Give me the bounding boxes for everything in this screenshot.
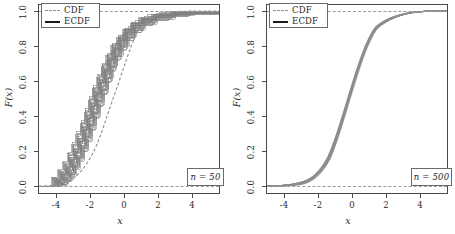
sample-size-label-left: n = 50 — [190, 172, 220, 182]
legend-dashed-line-icon-right — [273, 7, 288, 15]
x-tick-label-right-3: 0 — [340, 200, 364, 210]
x-tick-mark-right-2 — [318, 194, 319, 198]
x-tick-label-right-1: -4 — [272, 200, 296, 210]
x-tick-label-left-5: 4 — [180, 200, 204, 210]
y-tick-label-left-4: 0.4 — [18, 106, 28, 128]
y-tick-label-right-4: 0.4 — [246, 106, 256, 128]
y-tick-label-right-6: 0.0 — [246, 176, 256, 198]
sample-size-label-right: n = 500 — [414, 172, 450, 182]
sample-size-badge-left: n = 50 — [187, 168, 224, 186]
legend-label-cdf-right: CDF — [292, 5, 312, 16]
x-tick-label-right-5: 4 — [408, 200, 432, 210]
sample-size-badge-right: n = 500 — [411, 168, 452, 186]
panel-n500: F(x) 1.0 0.8 0.6 0.4 0.2 0.0 — [228, 0, 455, 234]
x-tick-mark-right-3 — [352, 194, 353, 198]
legend-entry-ecdf-left[interactable]: ECDF — [45, 16, 96, 27]
x-axis-title-left: x — [108, 215, 132, 226]
x-tick-label-left-4: 2 — [146, 200, 170, 210]
x-tick-mark-left-3 — [124, 194, 125, 198]
ecdf-curves-left — [39, 5, 219, 193]
x-tick-mark-left-4 — [158, 194, 159, 198]
y-tick-label-right-1: 1.0 — [246, 1, 256, 23]
y-tick-label-left-2: 0.8 — [18, 36, 28, 58]
y-tick-label-left-3: 0.6 — [18, 71, 28, 93]
reference-line-lower-right — [267, 186, 447, 187]
x-tick-label-right-2: -2 — [306, 200, 330, 210]
legend-left[interactable]: CDF ECDF — [41, 3, 100, 28]
legend-entry-cdf-left[interactable]: CDF — [45, 5, 96, 16]
x-tick-mark-right-4 — [386, 194, 387, 198]
x-tick-mark-left-2 — [90, 194, 91, 198]
x-tick-label-left-1: -4 — [44, 200, 68, 210]
x-tick-mark-left-5 — [192, 194, 193, 198]
x-tick-mark-left-1 — [56, 194, 57, 198]
legend-label-ecdf-left: ECDF — [64, 16, 90, 27]
plot-area-right — [267, 5, 447, 193]
reference-line-lower-left — [39, 186, 219, 187]
x-tick-mark-right-1 — [284, 194, 285, 198]
y-tick-label-left-5: 0.2 — [18, 141, 28, 163]
x-tick-label-left-3: 0 — [112, 200, 136, 210]
plot-area-left — [39, 5, 219, 193]
legend-label-cdf-left: CDF — [64, 5, 84, 16]
y-tick-label-right-3: 0.6 — [246, 71, 256, 93]
y-axis-title-left: F(x) — [3, 78, 14, 118]
x-tick-label-left-2: -2 — [78, 200, 102, 210]
legend-entry-cdf-right[interactable]: CDF — [273, 5, 324, 16]
legend-entry-ecdf-right[interactable]: ECDF — [273, 16, 324, 27]
panel-n50: F(x) 1.0 0.8 0.6 0.4 0.2 0.0 — [0, 0, 227, 234]
legend-dashed-line-icon-left — [45, 7, 60, 15]
x-axis-title-right: x — [336, 215, 360, 226]
legend-right[interactable]: CDF ECDF — [269, 3, 328, 28]
y-tick-label-right-5: 0.2 — [246, 141, 256, 163]
legend-label-ecdf-right: ECDF — [292, 16, 318, 27]
y-tick-label-right-2: 0.8 — [246, 36, 256, 58]
cdf-curve-right — [267, 11, 447, 186]
y-axis-title-right: F(x) — [231, 78, 242, 118]
y-tick-label-left-1: 1.0 — [18, 1, 28, 23]
legend-solid-line-icon-right — [273, 18, 288, 26]
y-tick-label-left-6: 0.0 — [18, 176, 28, 198]
ecdf-curves-right — [267, 5, 447, 193]
ecdf-convergence-figure: F(x) 1.0 0.8 0.6 0.4 0.2 0.0 — [0, 0, 455, 234]
x-tick-label-right-4: 2 — [374, 200, 398, 210]
x-tick-mark-right-5 — [420, 194, 421, 198]
legend-solid-line-icon-left — [45, 18, 60, 26]
